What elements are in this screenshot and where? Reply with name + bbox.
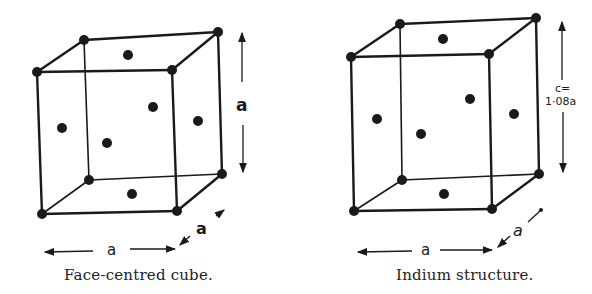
fcc-depth-label: a: [196, 219, 207, 238]
face-centre-atom: [57, 123, 67, 133]
corner-atom: [487, 204, 497, 214]
face-centre-atom: [509, 109, 519, 119]
face-centre-atom: [193, 116, 203, 126]
corner-atom: [213, 27, 223, 37]
diagram-canvas: a a a: [0, 0, 592, 294]
corner-atom: [37, 209, 47, 219]
face-centre-atom: [465, 94, 475, 104]
face-centre-atom: [102, 138, 112, 148]
corner-atom: [349, 206, 359, 216]
corner-atom: [167, 65, 177, 75]
face-centre-atom: [416, 129, 426, 139]
corner-atom: [534, 169, 544, 179]
corner-atom: [346, 52, 356, 62]
indium-depth-label: a: [513, 221, 523, 240]
indium-dimensions: a c= 1·08a a: [358, 22, 576, 259]
fcc-height-label: a: [236, 95, 247, 115]
fcc-caption: Face-centred cube.: [64, 266, 213, 284]
corner-atom: [484, 49, 494, 59]
corner-atom: [79, 35, 89, 45]
face-centre-atom: [372, 114, 382, 124]
fcc-cube: [32, 27, 227, 219]
corner-atom: [397, 175, 407, 185]
indium-height-label-line1: c=: [555, 82, 570, 95]
indium-caption: Indium structure.: [396, 266, 534, 284]
face-centre-atom: [438, 34, 448, 44]
corner-atom: [217, 169, 227, 179]
corner-atom: [172, 206, 182, 216]
corner-atom: [32, 67, 42, 77]
indium-height-label-line2: 1·08a: [545, 95, 576, 108]
indium-cube: [346, 13, 544, 216]
face-centre-atom: [123, 50, 133, 60]
corner-atom: [395, 19, 405, 29]
corner-atom: [84, 175, 94, 185]
fcc-width-label: a: [107, 241, 116, 259]
corner-atom: [531, 13, 541, 23]
face-centre-atom: [127, 189, 137, 199]
indium-width-label: a: [421, 241, 430, 259]
fcc-dimensions: a a a: [45, 33, 247, 259]
face-centre-atom: [148, 102, 158, 112]
face-centre-atom: [439, 189, 449, 199]
